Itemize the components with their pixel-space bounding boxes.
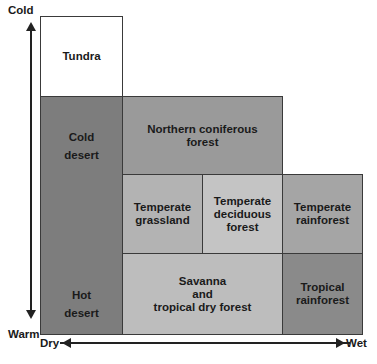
temperature-axis-line bbox=[30, 30, 32, 312]
arrow-down-icon bbox=[26, 310, 36, 319]
arrow-left-icon bbox=[62, 338, 71, 348]
moisture-axis-line bbox=[60, 342, 350, 344]
biome-temperate-deciduous-forest: Temperate deciduous forest bbox=[202, 174, 283, 254]
biome-label: Tropical rainforest bbox=[296, 281, 349, 307]
biome-label-hot-desert: Hot desert bbox=[64, 289, 99, 319]
biome-tundra: Tundra bbox=[40, 16, 123, 97]
arrow-up-icon bbox=[26, 22, 36, 31]
biome-label: Savanna and tropical dry forest bbox=[154, 275, 252, 314]
biome-label-cold-desert: Cold desert bbox=[64, 131, 99, 161]
axis-label-warm: Warm bbox=[8, 328, 40, 340]
biome-label: Temperate grassland bbox=[134, 201, 191, 227]
biome-temperate-rainforest: Temperate rainforest bbox=[282, 174, 363, 254]
axis-label-cold: Cold bbox=[8, 4, 34, 16]
biome-desert-column: Cold desert Hot desert bbox=[40, 96, 123, 335]
axis-label-dry: Dry bbox=[40, 337, 59, 349]
biome-label: Temperate deciduous forest bbox=[214, 195, 272, 234]
biome-label: Temperate rainforest bbox=[294, 201, 351, 227]
biome-label: Tundra bbox=[62, 50, 100, 63]
biome-northern-coniferous-forest: Northern coniferous forest bbox=[122, 96, 283, 175]
biome-savanna-tropical-dry-forest: Savanna and tropical dry forest bbox=[122, 253, 283, 335]
biome-tropical-rainforest: Tropical rainforest bbox=[282, 253, 363, 335]
arrow-right-icon bbox=[336, 338, 345, 348]
biome-label: Northern coniferous forest bbox=[147, 123, 258, 149]
biome-temperate-grassland: Temperate grassland bbox=[122, 174, 203, 254]
